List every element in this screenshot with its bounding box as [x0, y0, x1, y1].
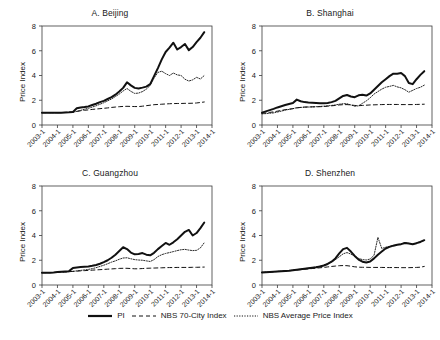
series-line	[262, 266, 424, 273]
legend-swatch-dotted	[233, 312, 259, 320]
legend-item-pi: PI	[87, 312, 125, 320]
legend-label: PI	[117, 312, 125, 320]
y-tick-label: 6	[252, 47, 256, 56]
x-tick-label: 2014-1	[196, 128, 216, 148]
y-tick-label: 8	[32, 182, 36, 191]
y-tick-label: 6	[32, 47, 36, 56]
plot-area: 024682003-12004-12005-12006-12007-12008-…	[0, 162, 220, 317]
figure-panels: A. Beijing Price Index 024682003-12004-1…	[0, 0, 440, 340]
plot-area: 024682003-12004-12005-12006-12007-12008-…	[220, 162, 440, 317]
y-tick-label: 8	[32, 22, 36, 31]
y-tick-label: 8	[252, 22, 256, 31]
x-tick-label: 2014-1	[416, 128, 436, 148]
y-tick-label: 6	[32, 207, 36, 216]
y-tick-label: 0	[32, 121, 36, 130]
series-line	[262, 85, 424, 114]
y-tick-label: 4	[252, 231, 256, 240]
legend-item-nbs-average-price: NBS Average Price Index	[233, 312, 353, 320]
y-tick-label: 0	[32, 281, 36, 290]
y-tick-label: 0	[252, 281, 256, 290]
y-tick-label: 2	[252, 256, 256, 265]
y-tick-label: 4	[32, 71, 36, 80]
panel-shanghai: B. Shanghai Price Index 024682003-12004-…	[220, 2, 440, 157]
legend-label: NBS Average Price Index	[263, 312, 353, 320]
panel-beijing: A. Beijing Price Index 024682003-12004-1…	[0, 2, 220, 157]
legend-item-nbs-70-city: NBS 70-City Index	[131, 312, 227, 320]
series-line	[42, 102, 204, 113]
series-line	[42, 32, 204, 112]
series-line	[262, 240, 424, 272]
y-tick-label: 0	[252, 121, 256, 130]
y-tick-label: 4	[252, 71, 256, 80]
y-tick-label: 8	[252, 182, 256, 191]
y-tick-label: 6	[252, 207, 256, 216]
y-tick-label: 2	[252, 96, 256, 105]
legend-swatch-dashed	[131, 312, 157, 320]
y-tick-label: 2	[32, 256, 36, 265]
series-line	[262, 71, 424, 112]
legend-swatch-solid	[87, 312, 113, 320]
plot-area: 024682003-12004-12005-12006-12007-12008-…	[220, 2, 440, 157]
y-tick-label: 4	[32, 231, 36, 240]
panel-shenzhen: D. Shenzhen Price Index 024682003-12004-…	[220, 162, 440, 317]
plot-area: 024682003-12004-12005-12006-12007-12008-…	[0, 2, 220, 157]
legend-label: NBS 70-City Index	[161, 312, 227, 320]
series-line	[42, 223, 204, 273]
panel-guangzhou: C. Guangzhou Price Index 024682003-12004…	[0, 162, 220, 317]
y-tick-label: 2	[32, 96, 36, 105]
chart-legend: PI NBS 70-City Index NBS Average Price I…	[0, 306, 440, 326]
series-line	[262, 237, 424, 272]
